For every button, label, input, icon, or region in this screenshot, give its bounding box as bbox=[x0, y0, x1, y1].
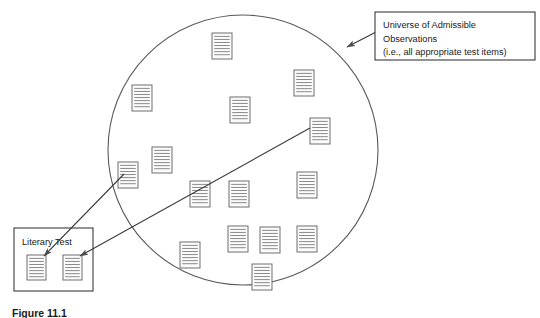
universe-test-item bbox=[297, 226, 317, 252]
figure-caption: Figure 11.1 bbox=[12, 307, 67, 318]
annotation-line-1: Universe of Admissible bbox=[383, 20, 476, 30]
universe-test-item bbox=[297, 172, 317, 198]
universe-test-item bbox=[152, 147, 172, 173]
universe-test-item bbox=[252, 264, 272, 290]
universe-test-item bbox=[228, 226, 248, 252]
universe-test-item bbox=[118, 162, 138, 188]
figure-container: Literary Test Universe of Admissible Obs… bbox=[0, 0, 540, 318]
universe-test-item bbox=[212, 33, 232, 59]
selected-test-item bbox=[63, 255, 82, 280]
annotation-arrow bbox=[347, 32, 376, 47]
annotation-line-2: Observations bbox=[383, 34, 438, 44]
universe-items-layer bbox=[118, 33, 330, 290]
universe-test-item bbox=[229, 181, 249, 207]
annotation-line-3: (i.e., all appropriate test items) bbox=[383, 47, 507, 57]
universe-test-item bbox=[260, 227, 280, 253]
diagram-canvas: Literary Test Universe of Admissible Obs… bbox=[0, 0, 540, 318]
universe-test-item bbox=[132, 85, 152, 111]
universe-test-item bbox=[294, 70, 314, 96]
universe-test-item bbox=[180, 242, 200, 268]
universe-test-item bbox=[310, 118, 330, 144]
annotation-callout-group: Universe of Admissible Observations (i.e… bbox=[347, 12, 535, 60]
selected-test-item bbox=[27, 255, 46, 280]
universe-test-item bbox=[230, 97, 250, 123]
literary-test-label: Literary Test bbox=[22, 237, 72, 247]
